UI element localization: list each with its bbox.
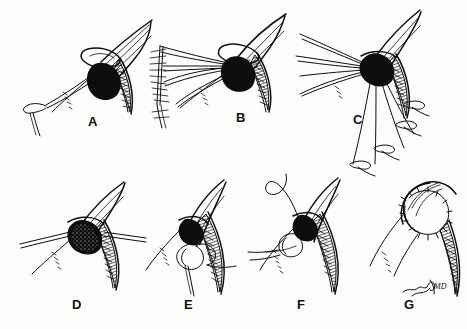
panel-label-g: G — [404, 297, 415, 312]
panel-label-b: B — [236, 110, 246, 125]
panel-f-drawing — [248, 174, 340, 294]
medical-illustration-figure: A B C D E F G MD — [0, 0, 467, 329]
panel-c-drawing — [296, 10, 429, 176]
panel-g-drawing — [370, 182, 460, 296]
artist-signature-mark — [403, 280, 435, 296]
panel-label-c: C — [353, 112, 363, 127]
panel-label-f: F — [297, 297, 305, 312]
panel-label-e: E — [184, 297, 193, 312]
illustration-canvas — [0, 0, 467, 329]
signature-md-text: MD — [434, 282, 446, 291]
panel-label-a: A — [88, 114, 98, 129]
panel-label-d: D — [72, 297, 82, 312]
panel-e-drawing — [146, 180, 236, 296]
panel-d-drawing — [20, 182, 146, 290]
panel-b-drawing — [150, 14, 286, 128]
